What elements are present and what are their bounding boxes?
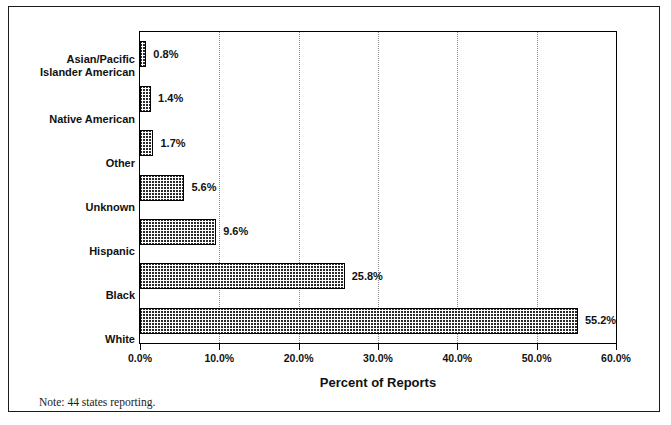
bar-other (140, 130, 153, 156)
x-axis-title: Percent of Reports (139, 375, 617, 390)
category-label-line: Asian/Pacific (13, 53, 135, 66)
category-label-line: White (13, 333, 135, 346)
bar-unknown (140, 175, 184, 201)
category-label-unknown: Unknown (13, 201, 135, 214)
category-label-line: Black (13, 289, 135, 302)
category-label-line: Unknown (13, 201, 135, 214)
x-tick-label-50: 50.0% (522, 352, 552, 364)
category-label-line: Native American (13, 113, 135, 126)
gridline-30 (378, 32, 379, 343)
bar-native-american (140, 86, 151, 112)
bar-row: 1.4% (140, 86, 183, 112)
bar-black (140, 263, 345, 289)
y-axis-category-labels: Asian/Pacific Islander American Native A… (9, 31, 135, 344)
bar-row: 25.8% (140, 263, 383, 289)
figure-frame: Asian/Pacific Islander American Native A… (8, 6, 660, 412)
bar-row: 1.7% (140, 130, 186, 156)
bar-asian-pacific-islander-american (140, 41, 146, 67)
x-tick-label-10: 10.0% (204, 352, 234, 364)
category-label-asian-pacific-islander-american: Asian/Pacific Islander American (13, 53, 135, 79)
category-label-other: Other (13, 157, 135, 170)
category-label-hispanic: Hispanic (13, 245, 135, 258)
category-label-line: Hispanic (13, 245, 135, 258)
bar-value-label: 5.6% (191, 182, 216, 193)
x-tick-label-30: 30.0% (363, 352, 393, 364)
bar-value-label: 1.4% (158, 93, 183, 104)
bar-row: 55.2% (140, 308, 616, 334)
bar-row: 0.8% (140, 41, 178, 67)
x-tick-label-20: 20.0% (284, 352, 314, 364)
category-label-white: White (13, 333, 135, 346)
bar-value-label: 55.2% (585, 315, 616, 326)
bar-value-label: 9.6% (223, 226, 248, 237)
bar-row: 5.6% (140, 175, 217, 201)
category-label-line: Other (13, 157, 135, 170)
category-label-line: Islander American (13, 66, 135, 79)
bar-value-label: 25.8% (352, 271, 383, 282)
x-axis: 0.0%10.0%20.0%30.0%40.0%50.0%60.0% (139, 344, 617, 374)
plot-area: 0.8%1.4%1.7%5.6%9.6%25.8%55.2% (139, 31, 617, 344)
x-tick-60 (616, 344, 617, 350)
x-tick-50 (537, 344, 538, 350)
chart-note: Note: 44 states reporting. (39, 396, 155, 408)
x-tick-label-0: 0.0% (128, 352, 152, 364)
gridline-10 (219, 32, 220, 343)
bar-value-label: 1.7% (160, 138, 185, 149)
x-tick-30 (378, 344, 379, 350)
x-tick-0 (140, 344, 141, 350)
category-label-black: Black (13, 289, 135, 302)
gridline-40 (457, 32, 458, 343)
x-tick-40 (457, 344, 458, 350)
x-tick-20 (299, 344, 300, 350)
bar-row: 9.6% (140, 219, 248, 245)
bar-white (140, 308, 578, 334)
x-tick-label-60: 60.0% (601, 352, 631, 364)
category-label-native-american: Native American (13, 113, 135, 126)
x-tick-label-40: 40.0% (442, 352, 472, 364)
gridline-50 (537, 32, 538, 343)
bar-value-label: 0.8% (153, 49, 178, 60)
x-tick-10 (219, 344, 220, 350)
bar-hispanic (140, 219, 216, 245)
gridline-20 (299, 32, 300, 343)
